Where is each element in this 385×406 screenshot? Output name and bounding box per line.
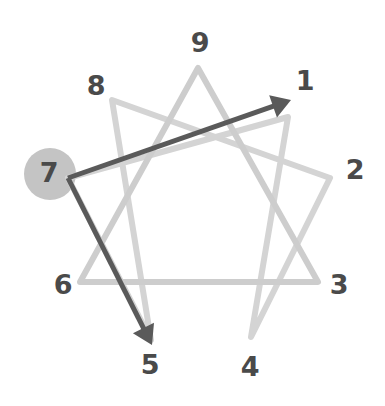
point-label-8[interactable]: 8: [81, 72, 111, 99]
enneagram-diagram: 1 2 3 4 5 6 7 8 9: [0, 0, 385, 406]
point-label-4[interactable]: 4: [235, 353, 265, 380]
arrow-line-7-to-5: [68, 178, 144, 330]
point-label-1[interactable]: 1: [290, 67, 320, 94]
point-label-2[interactable]: 2: [340, 156, 370, 183]
point-label-3[interactable]: 3: [324, 271, 354, 298]
point-label-5[interactable]: 5: [135, 351, 165, 378]
point-label-9[interactable]: 9: [185, 29, 215, 56]
enneagram-canvas: [0, 0, 385, 406]
hexad-path: [68, 100, 330, 340]
point-label-6[interactable]: 6: [48, 271, 78, 298]
point-label-7[interactable]: 7: [34, 159, 64, 186]
